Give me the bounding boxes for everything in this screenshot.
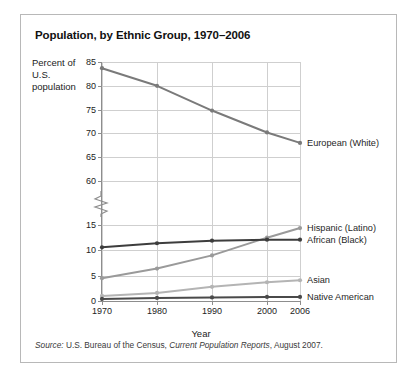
figure-panel: Population, by Ethnic Group, 1970–2006 P… bbox=[20, 14, 397, 363]
plot-area: 051015606570758085 19701980199020002006 … bbox=[102, 62, 300, 301]
data-point-marker bbox=[298, 295, 302, 299]
x-tick-mark bbox=[102, 301, 103, 305]
data-point-marker bbox=[210, 239, 214, 243]
series-line bbox=[102, 240, 300, 248]
x-tick-mark bbox=[212, 301, 213, 305]
series-line bbox=[102, 297, 300, 299]
series-label: Hispanic (Latino) bbox=[307, 223, 376, 233]
source-body: U.S. Bureau of the Census, bbox=[64, 340, 170, 350]
data-point-marker bbox=[265, 130, 269, 134]
y-tick-label: 10 bbox=[86, 245, 96, 255]
y-tick-label: 85 bbox=[86, 57, 96, 67]
y-tick-label: 60 bbox=[86, 176, 96, 186]
data-point-marker bbox=[265, 280, 269, 284]
y-tick-label: 65 bbox=[86, 152, 96, 162]
x-tick-mark bbox=[300, 301, 301, 305]
x-tick-mark bbox=[267, 301, 268, 305]
x-tick-label: 2000 bbox=[257, 306, 277, 316]
x-tick-mark bbox=[157, 301, 158, 305]
source-note: Source: U.S. Bureau of the Census, Curre… bbox=[35, 340, 323, 350]
series-label: Asian bbox=[307, 275, 330, 285]
x-tick-label: 2006 bbox=[290, 306, 310, 316]
data-point-marker bbox=[298, 238, 302, 242]
gridline-vertical bbox=[300, 62, 301, 301]
data-point-marker bbox=[100, 245, 104, 249]
data-point-marker bbox=[210, 253, 214, 257]
x-tick-label: 1970 bbox=[92, 306, 112, 316]
y-tick-label: 0 bbox=[91, 296, 96, 306]
data-point-marker bbox=[100, 66, 104, 70]
data-point-marker bbox=[100, 276, 104, 280]
y-tick-label: 80 bbox=[86, 81, 96, 91]
plot-frame: 051015606570758085 19701980199020002006 bbox=[102, 62, 300, 301]
y-tick-label: 70 bbox=[86, 128, 96, 138]
x-tick-label: 1980 bbox=[147, 306, 167, 316]
series-label: Native American bbox=[307, 292, 374, 302]
series-line bbox=[102, 280, 300, 296]
data-point-marker bbox=[210, 295, 214, 299]
data-point-marker bbox=[298, 226, 302, 230]
data-point-marker bbox=[265, 295, 269, 299]
data-point-marker bbox=[298, 141, 302, 145]
series-line bbox=[102, 68, 300, 143]
series-label: African (Black) bbox=[307, 235, 367, 245]
x-axis-title: Year bbox=[102, 328, 300, 339]
source-prefix: Source: bbox=[35, 340, 64, 350]
series-line bbox=[102, 228, 300, 278]
y-tick-label: 15 bbox=[86, 220, 96, 230]
series-lines bbox=[102, 62, 300, 301]
data-point-marker bbox=[298, 278, 302, 282]
y-tick-label: 5 bbox=[91, 271, 96, 281]
y-axis-title: Percent of U.S. population bbox=[32, 57, 90, 94]
data-point-marker bbox=[155, 291, 159, 295]
data-point-marker bbox=[155, 84, 159, 88]
data-point-marker bbox=[210, 108, 214, 112]
x-tick-label: 1990 bbox=[202, 306, 222, 316]
data-point-marker bbox=[155, 266, 159, 270]
chart-title: Population, by Ethnic Group, 1970–2006 bbox=[35, 29, 250, 41]
data-point-marker bbox=[155, 296, 159, 300]
data-point-marker bbox=[155, 241, 159, 245]
data-point-marker bbox=[100, 297, 104, 301]
source-italic-title: Current Population Reports bbox=[169, 340, 270, 350]
data-point-marker bbox=[210, 285, 214, 289]
y-tick-label: 75 bbox=[86, 105, 96, 115]
source-suffix: , August 2007. bbox=[270, 340, 323, 350]
data-point-marker bbox=[265, 238, 269, 242]
series-label: European (White) bbox=[307, 138, 379, 148]
